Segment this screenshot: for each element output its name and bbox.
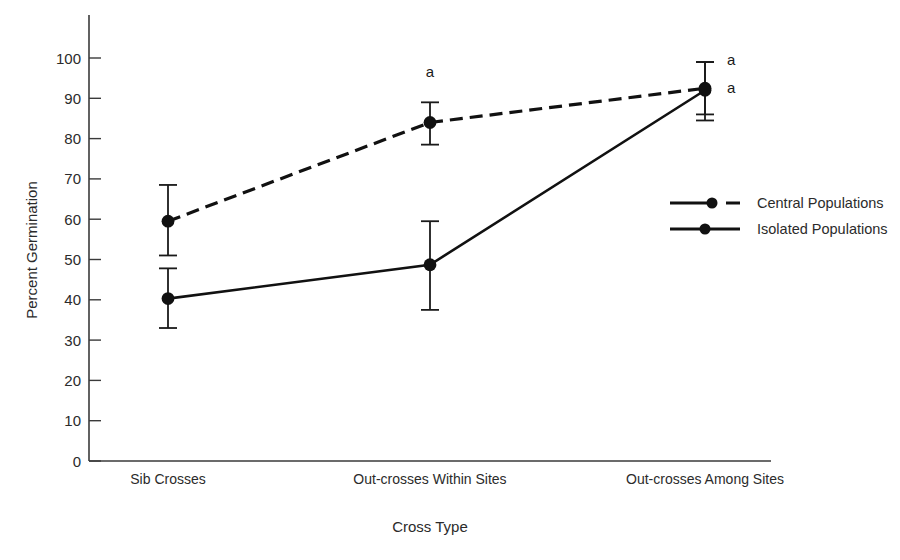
x-category-label-2: Out-crosses Among Sites (626, 471, 784, 487)
chart-legend: Central Populations Isolated Populations (670, 195, 888, 237)
data-point-0-1 (424, 116, 437, 129)
x-category-label-1: Out-crosses Within Sites (353, 471, 506, 487)
y-tick-label-30: 30 (64, 332, 81, 349)
y-tick-label-0: 0 (73, 453, 81, 470)
annotation-1: a (727, 51, 736, 68)
series-line-0 (168, 88, 705, 221)
x-axis-title: Cross Type (392, 518, 468, 535)
series-lines-group (168, 88, 705, 298)
y-tick-label-90: 90 (64, 90, 81, 107)
y-tick-label-50: 50 (64, 251, 81, 268)
y-tick-label-80: 80 (64, 130, 81, 147)
x-axis-category-labels: Sib CrossesOut-crosses Within SitesOut-c… (130, 471, 784, 487)
legend-marker-central (707, 198, 718, 209)
y-tick-label-40: 40 (64, 291, 81, 308)
data-point-1-1 (424, 258, 437, 271)
chart-figure: 0102030405060708090100 Sib CrossesOut-cr… (0, 0, 900, 560)
data-point-1-0 (162, 292, 175, 305)
legend-label-isolated: Isolated Populations (757, 221, 888, 237)
y-axis-title: Percent Germination (23, 181, 40, 319)
data-point-0-0 (162, 215, 175, 228)
line-chart-svg: 0102030405060708090100 Sib CrossesOut-cr… (0, 0, 900, 560)
data-point-1-2 (699, 84, 712, 97)
y-tick-label-100: 100 (56, 50, 81, 67)
y-axis-ticks (89, 58, 101, 461)
x-category-label-0: Sib Crosses (130, 471, 205, 487)
y-tick-label-60: 60 (64, 211, 81, 228)
y-tick-label-10: 10 (64, 412, 81, 429)
y-tick-label-20: 20 (64, 372, 81, 389)
annotation-2: a (727, 79, 736, 96)
y-axis-tick-labels: 0102030405060708090100 (56, 50, 81, 470)
y-tick-label-70: 70 (64, 170, 81, 187)
legend-marker-isolated (700, 224, 711, 235)
legend-label-central: Central Populations (757, 195, 884, 211)
annotation-0: a (426, 63, 435, 80)
